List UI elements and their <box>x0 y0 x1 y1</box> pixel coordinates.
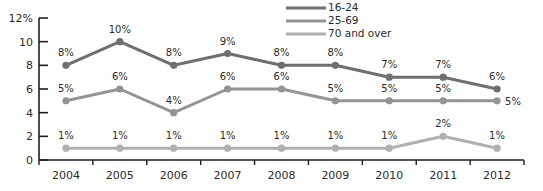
data-point <box>116 145 123 152</box>
data-point <box>170 62 177 69</box>
legend-label: 25-69 <box>328 14 359 26</box>
legend-label: 70 and over <box>328 27 392 39</box>
data-point <box>278 85 285 92</box>
data-point-label: 7% <box>381 59 397 70</box>
data-point <box>62 145 69 152</box>
data-point-label: 6% <box>274 71 290 82</box>
data-point <box>116 38 123 45</box>
line-chart: 024681012% 20042005200620072008200920102… <box>0 0 543 191</box>
data-point <box>116 85 123 92</box>
data-point-label: 5% <box>327 83 343 94</box>
data-point-label: 7% <box>435 59 451 70</box>
x-axis-tick-label: 2008 <box>268 169 296 182</box>
data-point-label: 10% <box>109 24 131 35</box>
data-point-label: 1% <box>220 130 236 141</box>
x-axis-tick-label: 2006 <box>160 169 188 182</box>
data-point-label: 5% <box>381 83 397 94</box>
data-point <box>278 145 285 152</box>
data-point-label: 8% <box>166 47 182 58</box>
data-point-label: 5% <box>58 83 74 94</box>
data-point <box>493 97 500 104</box>
x-axis-tick-label: 2012 <box>483 169 511 182</box>
chart-canvas: 024681012% 20042005200620072008200920102… <box>0 0 543 191</box>
data-point <box>493 145 500 152</box>
legend-label: 16-24 <box>328 1 359 13</box>
data-point-label: 5% <box>435 83 451 94</box>
x-axis: 200420052006200720082009201020112012 <box>39 160 524 182</box>
x-axis-tick-label: 2009 <box>321 169 349 182</box>
data-point <box>386 97 393 104</box>
y-axis-tick-label: 0 <box>26 154 33 167</box>
data-point-label: 8% <box>327 47 343 58</box>
data-point <box>224 50 231 57</box>
y-axis-tick-label: 8 <box>26 59 33 72</box>
data-point <box>62 62 69 69</box>
data-point <box>278 62 285 69</box>
data-point <box>386 145 393 152</box>
y-axis-tick-label: 6 <box>26 83 33 96</box>
data-point <box>170 109 177 116</box>
data-point-label: 9% <box>220 36 236 47</box>
x-axis-tick-label: 2004 <box>52 169 80 182</box>
data-labels-layer: 8%10%8%9%8%8%7%7%6%5%6%4%6%6%5%5%5%5%1%1… <box>58 24 521 142</box>
y-axis: 024681012% <box>9 12 48 167</box>
y-axis-tick-label: 10 <box>19 36 33 49</box>
data-point-label: 1% <box>381 130 397 141</box>
y-axis-tick-label: 2 <box>26 130 33 143</box>
data-point-label: 2% <box>435 118 451 129</box>
data-point <box>440 97 447 104</box>
data-point <box>170 145 177 152</box>
chart-legend: 16-2425-6970 and over <box>286 1 392 39</box>
data-point <box>224 85 231 92</box>
data-point-label: 4% <box>166 95 182 106</box>
data-point-label: 1% <box>327 130 343 141</box>
x-axis-tick-label: 2010 <box>375 169 403 182</box>
data-point-label: 6% <box>220 71 236 82</box>
x-axis-tick-label: 2007 <box>214 169 242 182</box>
data-point <box>224 145 231 152</box>
data-point-label: 1% <box>58 130 74 141</box>
x-axis-tick-label: 2011 <box>429 169 457 182</box>
y-axis-tick-label: 4 <box>26 107 33 120</box>
data-point-label: 1% <box>489 130 505 141</box>
x-axis-tick-label: 2005 <box>106 169 134 182</box>
data-point-label: 5% <box>505 96 521 107</box>
data-point-label: 8% <box>274 47 290 58</box>
data-point <box>440 133 447 140</box>
data-point-label: 1% <box>274 130 290 141</box>
data-point <box>332 97 339 104</box>
data-point-label: 8% <box>58 47 74 58</box>
data-point <box>62 97 69 104</box>
data-point <box>493 85 500 92</box>
data-point-label: 6% <box>489 71 505 82</box>
data-point <box>332 62 339 69</box>
y-axis-tick-label: 12% <box>9 12 33 25</box>
data-point <box>332 145 339 152</box>
data-point-label: 1% <box>166 130 182 141</box>
data-point <box>440 74 447 81</box>
data-point <box>386 74 393 81</box>
data-point-label: 6% <box>112 71 128 82</box>
data-point-label: 1% <box>112 130 128 141</box>
